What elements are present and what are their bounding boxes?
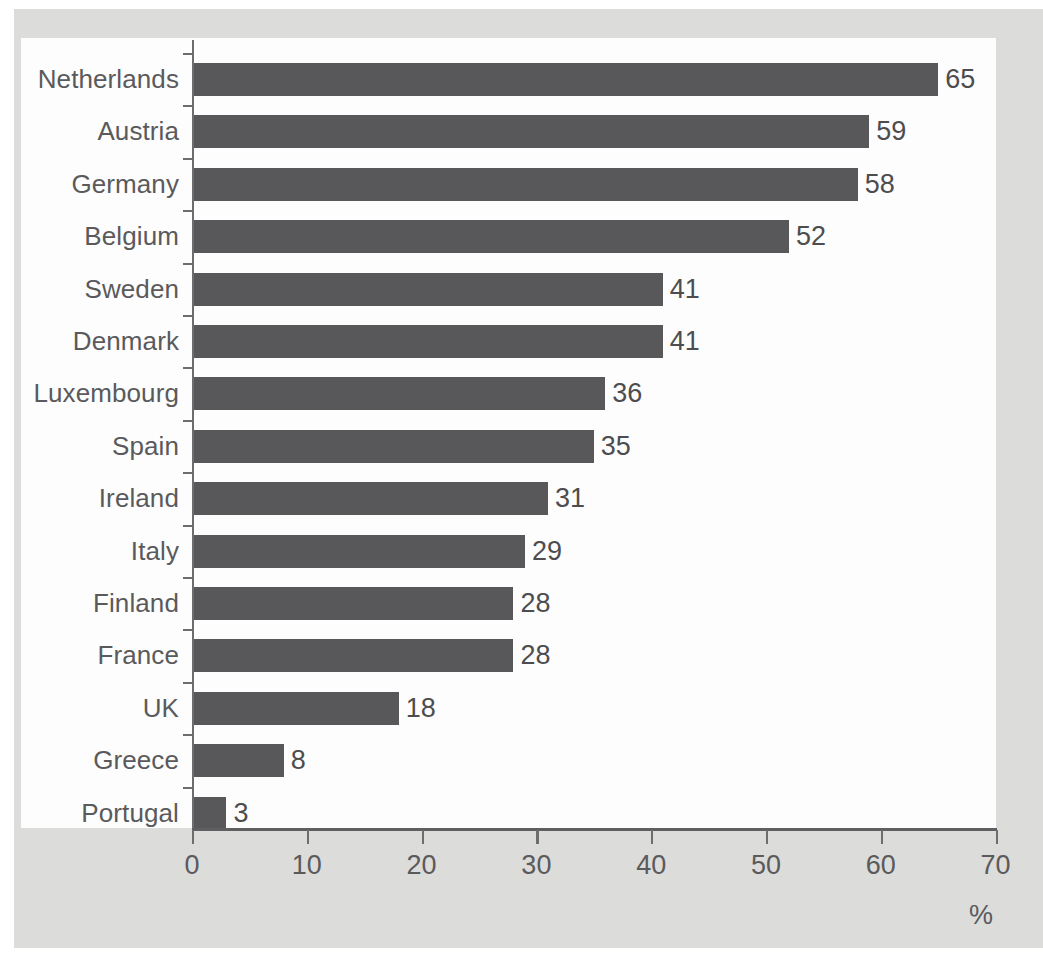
- bar: [192, 535, 525, 568]
- y-axis-tick: [183, 734, 192, 736]
- y-axis-tick: [183, 105, 192, 107]
- category-label: Netherlands: [21, 53, 179, 105]
- chart-bar-row: Sweden41: [21, 263, 996, 315]
- bar-value-label: 28: [513, 639, 550, 672]
- chart-bar-row: Netherlands65: [21, 53, 996, 105]
- category-label: Italy: [21, 525, 179, 577]
- category-label: Luxembourg: [21, 367, 179, 419]
- x-axis-tick-label: 50: [751, 850, 781, 881]
- chart-bar-row: Denmark41: [21, 315, 996, 367]
- x-axis-ticks: 010203040506070: [0, 828, 1043, 918]
- x-axis-tick-label: 0: [184, 850, 199, 881]
- x-axis-tick-stem: [996, 830, 998, 844]
- bar: [192, 430, 594, 463]
- x-axis-tick-label: 70: [981, 850, 1011, 881]
- y-axis-tick: [183, 158, 192, 160]
- bar-value-label: 36: [605, 377, 642, 410]
- y-axis-tick: [183, 629, 192, 631]
- y-axis-tick: [183, 53, 192, 55]
- bar-value-label: 29: [525, 535, 562, 568]
- x-axis-tick-stem: [766, 830, 768, 844]
- page-left-margin: [0, 0, 14, 966]
- chart-bar-row: Luxembourg36: [21, 367, 996, 419]
- bar: [192, 220, 789, 253]
- bar: [192, 482, 548, 515]
- bar: [192, 115, 869, 148]
- bar-value-label: 18: [399, 692, 436, 725]
- bar-value-label: 35: [594, 430, 631, 463]
- category-label: France: [21, 629, 179, 681]
- category-label: UK: [21, 682, 179, 734]
- y-axis-tick: [183, 263, 192, 265]
- bar: [192, 639, 513, 672]
- chart-bar-row: Belgium52: [21, 210, 996, 262]
- bar-rows-container: Netherlands65Austria59Germany58Belgium52…: [21, 38, 996, 828]
- chart-bar-row: Austria59: [21, 105, 996, 157]
- x-axis-tick-label: 40: [636, 850, 666, 881]
- bar-value-label: 41: [663, 273, 700, 306]
- x-axis-tick-label: 10: [292, 850, 322, 881]
- y-axis-tick: [183, 210, 192, 212]
- y-axis-line: [192, 40, 194, 829]
- y-axis-tick: [183, 682, 192, 684]
- chart-bar-row: Greece8: [21, 734, 996, 786]
- y-axis-tick: [183, 472, 192, 474]
- x-axis-unit-label: %: [969, 900, 993, 931]
- chart-bar-row: Italy29: [21, 525, 996, 577]
- category-label: Germany: [21, 158, 179, 210]
- page-bottom-margin: [0, 948, 1043, 966]
- x-axis-tick-label: 20: [407, 850, 437, 881]
- chart-bar-row: UK18: [21, 682, 996, 734]
- y-axis-tick: [183, 367, 192, 369]
- y-axis-tick: [183, 420, 192, 422]
- category-label: Ireland: [21, 472, 179, 524]
- bar-value-label: 59: [869, 115, 906, 148]
- bar: [192, 377, 605, 410]
- x-axis-tick-stem: [536, 830, 538, 844]
- bar-value-label: 28: [513, 587, 550, 620]
- x-axis-tick-stem: [307, 830, 309, 844]
- y-axis-tick: [183, 315, 192, 317]
- bar-value-label: 58: [858, 168, 895, 201]
- x-axis-tick-stem: [881, 830, 883, 844]
- bar-value-label: 41: [663, 325, 700, 358]
- bar-value-label: 3: [226, 797, 248, 830]
- category-label: Spain: [21, 420, 179, 472]
- bar: [192, 63, 938, 96]
- x-axis-tick-label: 60: [866, 850, 896, 881]
- bar: [192, 325, 663, 358]
- chart-bar-row: France28: [21, 629, 996, 681]
- chart-bar-row: Spain35: [21, 420, 996, 472]
- x-axis-tick-stem: [192, 830, 194, 844]
- bar: [192, 692, 399, 725]
- x-axis-tick-stem: [422, 830, 424, 844]
- bar-value-label: 65: [938, 63, 975, 96]
- category-label: Greece: [21, 734, 179, 786]
- category-label: Austria: [21, 105, 179, 157]
- bar: [192, 744, 284, 777]
- bar: [192, 168, 858, 201]
- chart-page: Netherlands65Austria59Germany58Belgium52…: [0, 0, 1043, 966]
- bar: [192, 273, 663, 306]
- y-axis-tick: [183, 577, 192, 579]
- category-label: Sweden: [21, 263, 179, 315]
- y-axis-tick: [183, 525, 192, 527]
- bar-value-label: 31: [548, 482, 585, 515]
- x-axis-tick-stem: [651, 830, 653, 844]
- chart-bar-row: Germany58: [21, 158, 996, 210]
- y-axis-tick: [183, 787, 192, 789]
- bar: [192, 797, 226, 830]
- bar-value-label: 52: [789, 220, 826, 253]
- x-axis-tick-label: 30: [521, 850, 551, 881]
- bar-value-label: 8: [284, 744, 306, 777]
- page-top-margin: [0, 0, 1043, 9]
- category-label: Finland: [21, 577, 179, 629]
- category-label: Belgium: [21, 210, 179, 262]
- chart-bar-row: Finland28: [21, 577, 996, 629]
- bar: [192, 587, 513, 620]
- category-label: Denmark: [21, 315, 179, 367]
- chart-bar-row: Ireland31: [21, 472, 996, 524]
